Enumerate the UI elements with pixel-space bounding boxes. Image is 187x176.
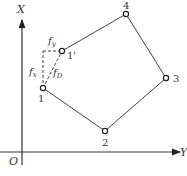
fx-label: fx — [28, 66, 37, 79]
vertex-4 — [123, 11, 128, 16]
vertex-1 — [40, 85, 45, 90]
vertex-3-label: 3 — [173, 73, 179, 84]
diagram-canvas: X Y O 1 2 3 4 1' fy fx fD — [0, 0, 187, 176]
vertex-1-prime-label: 1' — [67, 50, 76, 61]
fy-label: fy — [47, 35, 57, 48]
vertex-2-label: 2 — [102, 137, 108, 148]
vertex-1-label: 1 — [38, 93, 44, 104]
vertex-3 — [163, 75, 168, 80]
vertical-axis-label: X — [16, 3, 26, 16]
fd-label: fD — [52, 67, 63, 80]
horizontal-axis-label: Y — [180, 146, 187, 159]
origin-label: O — [9, 155, 18, 168]
vertex-1-prime — [59, 48, 64, 53]
vertex-2 — [102, 128, 107, 133]
polygon-offset-diagram: X Y O 1 2 3 4 1' fy fx fD — [0, 0, 187, 176]
vertex-4-label: 4 — [123, 0, 129, 11]
